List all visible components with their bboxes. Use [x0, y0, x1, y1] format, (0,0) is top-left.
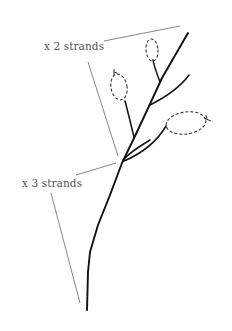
leaf-left-tip: [114, 69, 117, 75]
upper-leader-top: [104, 26, 180, 41]
lower-leader-bottom: [51, 193, 80, 303]
main-stem: [87, 33, 188, 310]
branch-top-leaf: [153, 60, 160, 82]
leaf-right: [165, 109, 208, 136]
lower-leader-top: [76, 163, 116, 175]
leaf-right-tip: [204, 115, 211, 121]
leaf-left: [109, 73, 129, 101]
label-x3-strands: x 3 strands: [22, 177, 82, 189]
label-x2-strands: x 2 strands: [44, 40, 104, 52]
diagram-canvas: x 2 strands x 3 strands: [0, 0, 232, 331]
stem-illustration: [0, 0, 232, 331]
branch-lowest-right: [123, 140, 150, 160]
branch-left-leaf: [125, 101, 134, 137]
leaf-top: [145, 39, 159, 62]
